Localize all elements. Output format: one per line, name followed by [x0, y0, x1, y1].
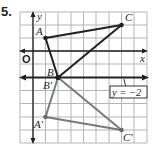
problem-number: 5.: [1, 4, 12, 19]
label-b-prime: B′: [43, 79, 53, 91]
origin-label: O: [22, 53, 31, 65]
reflection-line-label-box: y = −2: [110, 79, 147, 98]
label-c: C: [125, 11, 133, 23]
x-axis-label: x: [139, 52, 145, 64]
label-b: B: [47, 66, 54, 78]
label-a: A: [35, 25, 43, 37]
y-axis-label: y: [36, 10, 42, 22]
coordinate-plane: 5. y O x: [0, 0, 154, 149]
label-a-prime: A′: [33, 118, 44, 130]
point-a: [43, 36, 48, 41]
point-a-prime: [43, 115, 48, 120]
reflection-line-label: y = −2: [111, 87, 142, 98]
point-b: [55, 75, 60, 80]
reflection-line-arrow-right-icon: [142, 75, 149, 81]
label-c-prime: C′: [123, 131, 133, 143]
point-c: [119, 23, 124, 28]
